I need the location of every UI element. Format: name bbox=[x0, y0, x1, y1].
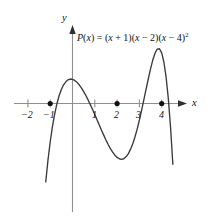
tick-label-2: 2 bbox=[114, 110, 119, 120]
root-point-4 bbox=[159, 101, 164, 106]
polynomial-graph-figure: P(x) = (x + 1)(x − 2)(x − 4)2 y x −2 −1 … bbox=[0, 0, 207, 217]
root-point-minus1 bbox=[48, 101, 53, 106]
y-axis-label: y bbox=[62, 13, 67, 24]
tick-label-1: 1 bbox=[92, 110, 97, 120]
equation-equals: = bbox=[94, 32, 105, 43]
equation-exponent: 2 bbox=[185, 31, 188, 38]
y-axis-arrowhead bbox=[69, 25, 75, 34]
tick-label-minus2: −2 bbox=[21, 110, 33, 120]
equation-f1-op: + 1)( bbox=[113, 32, 135, 43]
tick-label-4: 4 bbox=[159, 110, 164, 120]
x-axis-label: x bbox=[192, 98, 197, 109]
equation-f2-op: − 2)( bbox=[139, 32, 161, 43]
equation-annotation: P(x) = (x + 1)(x − 2)(x − 4)2 bbox=[77, 33, 188, 43]
tick-label-3: 3 bbox=[136, 110, 141, 120]
x-axis-arrowhead bbox=[178, 100, 187, 106]
equation-f3-op: − 4) bbox=[166, 32, 185, 43]
root-point-2 bbox=[115, 101, 120, 106]
polynomial-curve bbox=[46, 49, 173, 182]
tick-label-minus1: −1 bbox=[43, 110, 55, 120]
